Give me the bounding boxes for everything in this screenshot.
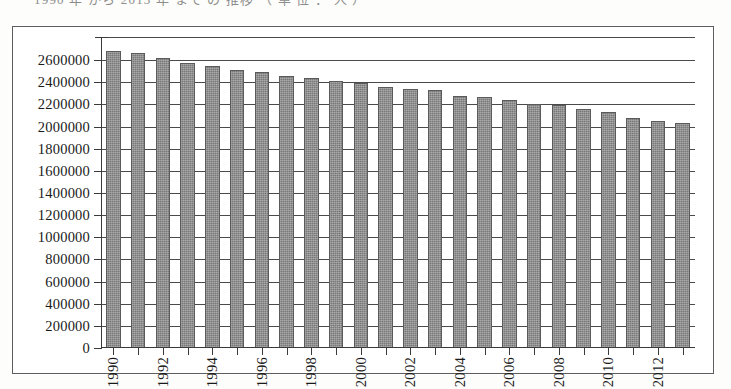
- y-axis-tick: [94, 304, 102, 305]
- x-axis-tick: [163, 348, 164, 355]
- x-axis-label: 1998: [303, 357, 320, 387]
- gridline: [101, 60, 695, 61]
- x-axis-tick: [633, 348, 634, 355]
- x-axis-tick: [262, 348, 263, 355]
- caption-remnant: 1990 年 から 2013 年 まで の 推移 （ 単 位 ： 人 ）: [0, 0, 731, 11]
- bar: [502, 100, 516, 348]
- x-axis-label: 2012: [650, 357, 667, 387]
- y-axis-tick: [94, 348, 102, 349]
- x-axis-tick: [138, 348, 139, 355]
- x-axis-label: 2010: [600, 357, 617, 387]
- bar: [651, 121, 665, 348]
- x-axis-tick: [608, 348, 609, 355]
- x-axis-tick: [336, 348, 337, 355]
- bar: [552, 105, 566, 348]
- x-axis-label: 2008: [551, 357, 568, 387]
- bar: [180, 63, 194, 348]
- bar: [156, 58, 170, 348]
- y-axis-label: 600000: [45, 273, 90, 290]
- y-axis-tick: [94, 82, 102, 83]
- bar: [403, 89, 417, 348]
- x-axis-tick: [460, 348, 461, 355]
- y-axis-tick: [94, 237, 102, 238]
- bar: [329, 81, 343, 348]
- y-axis-tick: [94, 127, 102, 128]
- x-axis-tick: [509, 348, 510, 355]
- y-axis-tick: [94, 193, 102, 194]
- y-axis-tick: [94, 60, 102, 61]
- bar: [428, 90, 442, 348]
- x-axis-tick: [584, 348, 585, 355]
- y-axis-tick: [94, 104, 102, 105]
- y-axis-label: 1200000: [38, 207, 90, 224]
- y-axis-label: 400000: [45, 295, 90, 312]
- chart-figure-frame: 0200000400000600000800000100000012000001…: [12, 26, 714, 374]
- bar: [675, 123, 689, 348]
- y-axis-label: 2000000: [38, 118, 90, 135]
- y-axis-tick: [94, 171, 102, 172]
- x-axis-tick: [534, 348, 535, 355]
- y-axis-label: 2400000: [38, 74, 90, 91]
- x-axis-line: [101, 347, 695, 348]
- y-axis-tick: [94, 215, 102, 216]
- x-axis-label: 1992: [155, 357, 172, 387]
- x-axis-label: 1990: [105, 357, 122, 387]
- bar: [131, 53, 145, 348]
- x-axis-tick: [386, 348, 387, 355]
- bar: [601, 112, 615, 348]
- y-axis-tick: [94, 326, 102, 327]
- y-axis-label: 0: [83, 340, 90, 357]
- y-axis-tick: [94, 282, 102, 283]
- bar: [626, 118, 640, 348]
- y-axis-label: 800000: [45, 251, 90, 268]
- caption-remnant-text: 1990 年 から 2013 年 まで の 推移 （ 単 位 ： 人 ）: [0, 0, 731, 8]
- y-axis-label: 200000: [45, 317, 90, 334]
- bar: [279, 76, 293, 348]
- x-axis-label: 1994: [204, 357, 221, 387]
- y-axis-tick: [94, 149, 102, 150]
- bar: [255, 72, 269, 348]
- x-axis-tick: [237, 348, 238, 355]
- x-axis-tick: [287, 348, 288, 355]
- y-axis-label: 2200000: [38, 96, 90, 113]
- x-axis-label: 2000: [353, 357, 370, 387]
- bar: [453, 96, 467, 348]
- x-axis-tick: [410, 348, 411, 355]
- plot-area: 0200000400000600000800000100000012000001…: [101, 49, 695, 348]
- x-axis-tick: [188, 348, 189, 355]
- x-axis-tick: [311, 348, 312, 355]
- y-axis-label: 1000000: [38, 229, 90, 246]
- bar: [527, 104, 541, 348]
- bar: [477, 97, 491, 348]
- bar: [230, 70, 244, 348]
- y-axis-label: 1800000: [38, 140, 90, 157]
- gridline-top: [101, 37, 695, 38]
- x-axis-label: 2002: [402, 357, 419, 387]
- x-axis-label: 1996: [254, 357, 271, 387]
- bar: [205, 66, 219, 348]
- x-axis-tick: [212, 348, 213, 355]
- bar: [304, 78, 318, 348]
- y-axis-top-cap: [95, 37, 108, 38]
- y-axis-label: 1600000: [38, 162, 90, 179]
- x-axis-tick: [683, 348, 684, 355]
- bar: [354, 83, 368, 348]
- bar: [106, 51, 120, 348]
- x-axis-tick: [435, 348, 436, 355]
- x-axis-tick: [485, 348, 486, 355]
- x-axis-tick: [559, 348, 560, 355]
- y-axis-label: 2600000: [38, 52, 90, 69]
- x-axis-tick: [113, 348, 114, 355]
- x-axis-label: 2006: [501, 357, 518, 387]
- y-axis-label: 1400000: [38, 184, 90, 201]
- x-axis-tick: [361, 348, 362, 355]
- x-axis-label: 2004: [452, 357, 469, 387]
- bar: [378, 87, 392, 348]
- x-axis-tick: [658, 348, 659, 355]
- y-axis-tick: [94, 259, 102, 260]
- bar: [576, 109, 590, 348]
